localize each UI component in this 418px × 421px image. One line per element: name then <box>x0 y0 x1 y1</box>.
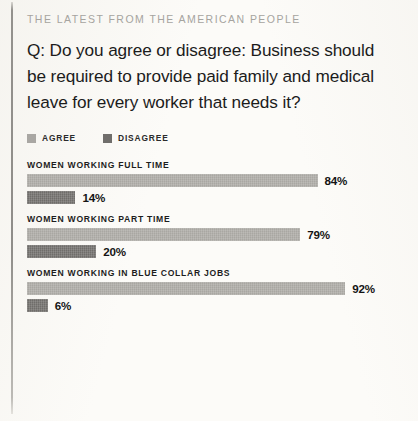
bar-value-agree: 92% <box>352 282 375 295</box>
legend-swatch-disagree-icon <box>103 134 112 143</box>
bar-value-disagree: 20% <box>103 245 126 258</box>
content-column: THE LATEST FROM THE AMERICAN PEOPLE Q: D… <box>27 0 412 421</box>
legend-label-disagree: DISAGREE <box>118 133 169 143</box>
bar-disagree <box>27 245 96 258</box>
bar-value-agree: 84% <box>325 174 348 187</box>
bar-agree <box>27 228 300 241</box>
bar-group-label: WOMEN WORKING IN BLUE COLLAR JOBS <box>27 268 412 278</box>
chart-legend: AGREE DISAGREE <box>27 132 412 144</box>
bar-group-label: WOMEN WORKING PART TIME <box>27 214 412 224</box>
legend-item-disagree: DISAGREE <box>103 133 169 143</box>
bar-group: WOMEN WORKING PART TIME79%20% <box>27 214 412 258</box>
poll-infographic-page: THE LATEST FROM THE AMERICAN PEOPLE Q: D… <box>0 0 418 421</box>
bar-row-disagree: 6% <box>27 299 412 312</box>
bar-row-agree: 92% <box>27 282 412 295</box>
bar-group: WOMEN WORKING FULL TIME84%14% <box>27 160 412 204</box>
bar-row-agree: 79% <box>27 228 412 241</box>
legend-item-agree: AGREE <box>27 133 76 143</box>
left-vertical-rule <box>11 2 13 414</box>
bar-agree <box>27 282 345 295</box>
bar-value-disagree: 6% <box>55 299 71 312</box>
bar-row-agree: 84% <box>27 174 412 187</box>
bar-disagree <box>27 191 75 204</box>
bar-group: WOMEN WORKING IN BLUE COLLAR JOBS92%6% <box>27 268 412 312</box>
legend-swatch-agree-icon <box>27 134 36 143</box>
bar-row-disagree: 14% <box>27 191 412 204</box>
bar-value-agree: 79% <box>307 228 330 241</box>
bar-disagree <box>27 299 48 312</box>
bar-row-disagree: 20% <box>27 245 412 258</box>
legend-label-agree: AGREE <box>42 133 76 143</box>
kicker-heading: THE LATEST FROM THE AMERICAN PEOPLE <box>27 13 412 25</box>
bar-value-disagree: 14% <box>82 191 105 204</box>
poll-question: Q: Do you agree or disagree: Business sh… <box>27 37 379 115</box>
bar-group-label: WOMEN WORKING FULL TIME <box>27 160 412 170</box>
bar-agree <box>27 174 318 187</box>
bar-chart: WOMEN WORKING FULL TIME84%14%WOMEN WORKI… <box>27 160 412 312</box>
